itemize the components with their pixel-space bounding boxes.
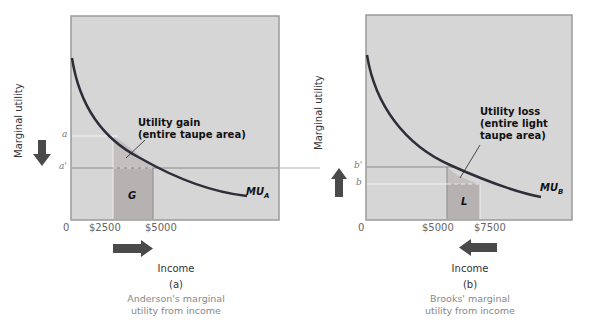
panel-a-caption: (a) (146, 279, 206, 290)
level-b-label: b (356, 177, 362, 187)
panel-b-x-axis-label: Income (440, 263, 500, 274)
x-tick-2500: $2500 (89, 222, 121, 233)
mu-b-label: MUB (540, 182, 563, 196)
arrow-left-icon (459, 239, 497, 256)
x-tick-0-b: 0 (358, 222, 364, 233)
panel-a-description: Anderson's marginal utility from income (116, 293, 236, 317)
chart-graphics (0, 0, 589, 335)
level-b-prime-label: b' (354, 160, 362, 170)
arrow-right-icon (113, 240, 153, 257)
utility-loss-annotation: Utility loss (entire light taupe area) (480, 106, 548, 142)
level-a-label: a (62, 129, 67, 139)
panel-a-x-axis-label: Income (146, 263, 206, 274)
arrow-down-icon (33, 140, 51, 166)
panel-b-caption: (b) (440, 279, 500, 290)
panel-b-description: Brooks' marginal utility from income (410, 293, 530, 317)
panel-b-y-axis-label: Marginal utility (313, 75, 324, 150)
mu-a-label: MUA (246, 186, 270, 200)
utility-gain-annotation: Utility gain (entire taupe area) (138, 117, 246, 141)
level-a-prime-label: a' (59, 161, 67, 171)
area-g-label: G (128, 190, 136, 201)
x-tick-5000-b: $5000 (422, 222, 454, 233)
x-tick-5000: $5000 (145, 222, 177, 233)
x-tick-7500-b: $7500 (474, 222, 506, 233)
panel-a-y-axis-label: Marginal utility (13, 83, 24, 158)
x-tick-0: 0 (63, 222, 69, 233)
area-l-label: L (461, 196, 467, 207)
arrow-up-icon (331, 168, 347, 197)
